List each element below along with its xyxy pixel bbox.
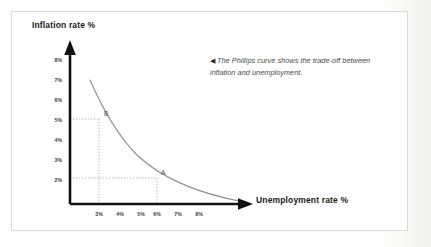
figure-page: Inflation rate % Unemployment rate % 2% … — [0, 0, 431, 247]
x-tick-label: 3% — [92, 211, 106, 217]
figure-frame: Inflation rate % Unemployment rate % 2% … — [11, 11, 408, 231]
point-label-b: B — [104, 110, 108, 117]
caption-block: ◀The Phillips curve shows the trade-off … — [210, 55, 395, 78]
point-label-a: A — [161, 169, 165, 176]
left-triangle-icon: ◀ — [210, 57, 215, 64]
y-tick-label: 5% — [48, 117, 62, 123]
x-axis-arrowhead — [238, 198, 253, 210]
x-tick-label: 6% — [150, 211, 164, 217]
y-tick-label: 4% — [48, 137, 62, 143]
x-tick-label: 7% — [171, 211, 185, 217]
caption-text: The Phillips curve shows the trade-off b… — [210, 56, 370, 77]
y-tick-label: 6% — [48, 97, 62, 103]
y-tick-label: 2% — [48, 177, 62, 183]
y-axis-arrowhead — [64, 40, 76, 55]
x-tick-label: 4% — [113, 211, 127, 217]
x-tick-label: 8% — [192, 211, 206, 217]
y-tick-label: 8% — [48, 57, 62, 63]
y-tick-label: 3% — [48, 157, 62, 163]
phillips-curve-line — [90, 80, 244, 202]
y-tick-label: 7% — [48, 77, 62, 83]
phillips-curve-plot — [12, 12, 409, 232]
x-tick-label: 5% — [134, 211, 148, 217]
